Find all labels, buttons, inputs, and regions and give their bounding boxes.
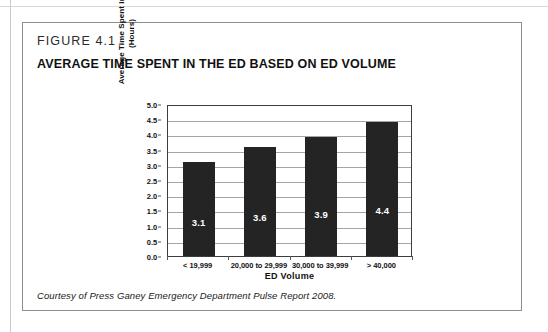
bar: 3.6: [244, 147, 276, 256]
y-axis-tick-mark: [158, 241, 161, 242]
y-axis-tick-label: 5.0: [147, 101, 157, 110]
plot-area: 3.13.63.94.4: [167, 105, 412, 257]
y-axis-tick-labels: 0.00.51.01.52.02.53.03.54.04.55.0: [133, 105, 161, 255]
bar: 3.9: [305, 137, 337, 256]
bar: 4.4: [366, 122, 398, 256]
x-axis-tick-mark: [228, 256, 229, 260]
y-axis-tick-mark: [158, 105, 161, 106]
x-axis-title: ED Volume: [167, 271, 412, 281]
x-axis-tick-mark: [351, 256, 352, 260]
page-edge-line-left: [10, 0, 11, 332]
x-axis-tick-label: > 40,000: [367, 261, 396, 270]
y-axis-tick-label: 3.5: [147, 146, 157, 155]
y-axis-tick-label: 1.0: [147, 222, 157, 231]
y-axis-tick-label: 2.0: [147, 192, 157, 201]
y-axis-title-line2: (Hours): [127, 0, 137, 106]
y-axis-tick-label: 0.0: [147, 253, 157, 262]
y-axis-tick-label: 2.5: [147, 177, 157, 186]
y-axis-title: Average Time Spent in ED (Hours): [117, 0, 139, 106]
y-axis-tick-mark: [158, 196, 161, 197]
bar-value-label: 4.4: [366, 205, 398, 216]
y-axis-tick-mark: [158, 226, 161, 227]
y-axis-tick-label: 1.5: [147, 207, 157, 216]
bar-value-label: 3.1: [183, 217, 215, 228]
figure-container: FIGURE 4.1 AVERAGE TIME SPENT IN THE ED …: [22, 22, 522, 311]
y-axis-tick-label: 0.5: [147, 237, 157, 246]
y-axis-tick-mark: [158, 120, 161, 121]
bar-value-label: 3.9: [305, 209, 337, 220]
x-axis-tick-mark: [167, 256, 168, 260]
figure-number-label: FIGURE 4.1: [37, 34, 116, 48]
x-axis-tick-label: 20,000 to 29,999: [231, 261, 287, 270]
page-edge-line-top: [0, 6, 548, 7]
bar-chart: Average Time Spent in ED (Hours) 0.00.51…: [119, 83, 429, 283]
figure-caption: Courtesy of Press Ganey Emergency Depart…: [37, 290, 336, 301]
figure-title: AVERAGE TIME SPENT IN THE ED BASED ON ED…: [37, 57, 396, 71]
x-axis-tick-label: 30,000 to 39,999: [292, 261, 348, 270]
y-axis-tick-label: 3.0: [147, 161, 157, 170]
y-axis-tick-mark: [158, 165, 161, 166]
y-axis-tick-mark: [158, 150, 161, 151]
x-axis-tick-mark: [290, 256, 291, 260]
y-axis-tick-mark: [158, 181, 161, 182]
y-axis-tick-label: 4.0: [147, 131, 157, 140]
y-axis-title-line1: Average Time Spent in ED: [117, 0, 127, 106]
y-axis-tick-mark: [158, 257, 161, 258]
y-axis-tick-mark: [158, 211, 161, 212]
bar-value-label: 3.6: [244, 212, 276, 223]
y-axis-tick-mark: [158, 135, 161, 136]
x-axis-tick-mark: [412, 256, 413, 260]
bar: 3.1: [183, 162, 215, 256]
x-axis-tick-label: < 19,999: [183, 261, 212, 270]
y-axis-tick-label: 4.5: [147, 116, 157, 125]
